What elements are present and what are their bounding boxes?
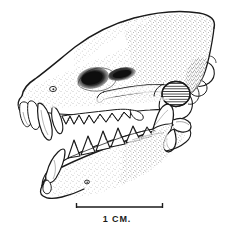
- figure-root: 1 CM.: [0, 0, 236, 236]
- scale-bar-label: 1 CM.: [0, 214, 236, 224]
- mandibular-condyle: [173, 119, 191, 132]
- upper-incisors: [20, 101, 40, 130]
- skull-illustration: [0, 0, 236, 236]
- scale-bar-label-text: 1 CM.: [103, 214, 132, 224]
- mental-foramen: [85, 180, 90, 184]
- upper-canine: [38, 103, 63, 140]
- scale-bar: [76, 203, 163, 208]
- infraorbital-foramen: [50, 86, 57, 91]
- upper-tooth-row: [62, 109, 143, 124]
- cranium: [18, 8, 222, 140]
